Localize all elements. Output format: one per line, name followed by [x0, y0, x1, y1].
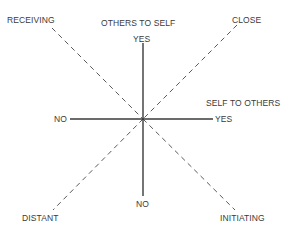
label-vertical-yes: YES	[133, 34, 151, 44]
label-self-to-others: SELF TO OTHERS	[206, 98, 281, 108]
label-distant: DISTANT	[22, 213, 58, 223]
label-horizontal-yes: YES	[215, 114, 233, 124]
label-others-to-self: OTHERS TO SELF	[101, 18, 175, 28]
label-initiating: INITIATING	[220, 213, 265, 223]
label-close: CLOSE	[232, 15, 262, 25]
diagonal-receiving-distant-lower	[143, 119, 235, 210]
interpersonal-orientation-diagram: RECEIVING OTHERS TO SELF YES CLOSE SELF …	[0, 0, 294, 234]
label-vertical-no: NO	[136, 199, 149, 209]
diagonal-distant	[53, 119, 143, 210]
label-horizontal-no: NO	[54, 114, 67, 124]
diagonal-receiving-distant	[52, 28, 143, 119]
label-receiving: RECEIVING	[7, 15, 55, 25]
